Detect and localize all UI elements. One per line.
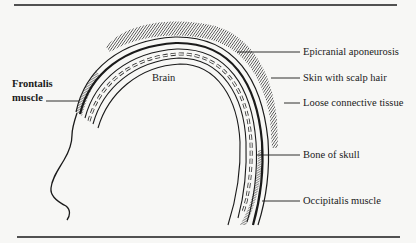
label-bone-of-skull: Bone of skull [303,149,360,161]
label-frontalis-2: muscle [12,92,43,104]
label-epicranial-aponeurosis: Epicranial aponeurosis [303,46,399,58]
label-frontalis-1: Frontalis [12,78,53,90]
label-loose-connective-tissue: Loose connective tissue [303,97,403,109]
label-occipitalis-muscle: Occipitalis muscle [303,195,381,207]
brain-surface [98,64,240,225]
label-brain: Brain [152,72,175,84]
scalp-layers-diagram: Frontalis muscle Brain Epicranial aponeu… [0,0,416,243]
label-skin-with-scalp-hair: Skin with scalp hair [303,72,387,84]
scalp-hair [106,21,278,148]
face-profile [51,113,77,220]
